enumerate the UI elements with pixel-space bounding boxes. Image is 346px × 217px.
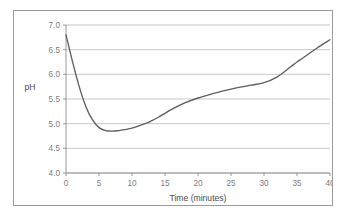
x-tick-label: 20 xyxy=(193,179,203,188)
chart-figure-frame: 4.04.55.05.56.06.57.0 0510152025303540 p… xyxy=(13,10,333,206)
y-tick-label: 5.0 xyxy=(49,120,61,129)
y-tick-label: 4.5 xyxy=(49,144,61,153)
y-tick-label: 6.0 xyxy=(49,70,61,79)
x-tick-label: 35 xyxy=(292,179,302,188)
y-tick-label: 5.5 xyxy=(49,95,61,104)
x-tick-label: 40 xyxy=(325,179,332,188)
y-axis-tick-labels: 4.04.55.05.56.06.57.0 xyxy=(49,21,61,178)
y-tick-label: 6.5 xyxy=(49,46,61,55)
y-tick-label: 7.0 xyxy=(49,21,61,30)
x-axis-tick-labels: 0510152025303540 xyxy=(64,179,332,188)
y-axis-title: pH xyxy=(25,82,36,92)
ph-vs-time-line-chart: 4.04.55.05.56.06.57.0 0510152025303540 p… xyxy=(14,11,332,205)
x-tick-label: 5 xyxy=(97,179,102,188)
y-tick-label: 4.0 xyxy=(49,169,61,178)
horizontal-gridlines xyxy=(66,25,330,173)
x-axis-title: Time (minutes) xyxy=(170,193,227,203)
x-tick-label: 15 xyxy=(160,179,170,188)
x-tick-label: 10 xyxy=(127,179,137,188)
x-tick-label: 0 xyxy=(64,179,69,188)
x-tick-label: 30 xyxy=(259,179,269,188)
x-tick-label: 25 xyxy=(226,179,236,188)
